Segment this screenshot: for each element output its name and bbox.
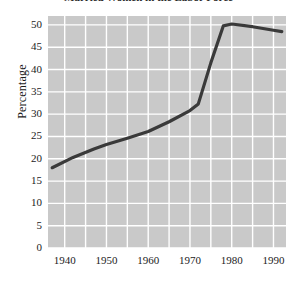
y-tick-label: 0 — [8, 241, 42, 253]
vertical-gridlines — [65, 16, 274, 248]
x-tick-label: 1970 — [168, 254, 212, 266]
data-line — [52, 24, 282, 168]
y-tick-label: 20 — [8, 152, 42, 164]
y-tick-label: 15 — [8, 174, 42, 186]
y-tick-label: 40 — [8, 63, 42, 75]
y-tick-label: 35 — [8, 85, 42, 97]
chart-title-clip: Married Women in the Labor Force — [0, 0, 297, 5]
y-tick-label: 45 — [8, 40, 42, 52]
y-tick-label: 25 — [8, 129, 42, 141]
x-tick-label: 1950 — [84, 254, 128, 266]
y-tick-label: 10 — [8, 196, 42, 208]
y-tick-label: 30 — [8, 107, 42, 119]
y-tick-label: 5 — [8, 219, 42, 231]
data-series-group — [52, 24, 282, 168]
x-tick-label: 1980 — [210, 254, 254, 266]
horizontal-gridlines — [48, 25, 286, 248]
x-tick-label: 1940 — [43, 254, 87, 266]
x-tick-label: 1960 — [126, 254, 170, 266]
y-tick-label: 50 — [8, 18, 42, 30]
plot-area — [48, 16, 286, 248]
x-tick-label: 1990 — [251, 254, 295, 266]
chart-figure: Married Women in the Labor Force Percent… — [0, 0, 297, 286]
chart-title: Married Women in the Labor Force — [64, 0, 233, 3]
chart-svg — [48, 16, 286, 248]
